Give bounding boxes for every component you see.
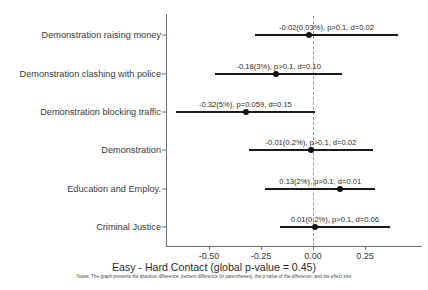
x-axis-tick-label: -0.25 — [251, 251, 272, 261]
confidence-interval-line — [265, 188, 375, 190]
x-axis-title: Easy - Hard Contact (global p-value = 0.… — [0, 261, 428, 273]
category-label: Demonstration clashing with police — [0, 69, 161, 79]
estimate-point — [306, 32, 312, 38]
estimate-point — [312, 224, 318, 230]
confidence-interval-line — [215, 73, 342, 75]
category-label: Education and Employ. — [0, 184, 161, 194]
point-annotation: 0.01(0.2%), p>0.1, d=0.06 — [291, 215, 379, 224]
y-axis-tick — [162, 226, 166, 227]
category-label: Criminal Justice — [0, 222, 161, 232]
x-axis-tick — [313, 246, 314, 250]
point-annotation: -0.32(5%), p=0.059, d=0.15 — [199, 100, 292, 109]
chart-notes: Notes: The graph presents the absolute d… — [0, 274, 428, 279]
confidence-interval-line — [280, 226, 390, 228]
y-axis-tick — [162, 150, 166, 151]
zero-reference-line — [313, 16, 314, 246]
y-axis-tick — [162, 35, 166, 36]
estimate-point — [273, 71, 279, 77]
x-axis-tick-label: 0.00 — [304, 251, 322, 261]
forest-plot-figure: Demonstration raising money-0.02(0.03%),… — [0, 0, 428, 290]
y-axis-tick — [162, 111, 166, 112]
y-axis-tick — [162, 188, 166, 189]
x-axis-spine — [166, 246, 422, 247]
x-axis-tick — [209, 246, 210, 250]
confidence-interval-line — [255, 34, 399, 36]
x-axis-tick-label: 0.25 — [356, 251, 374, 261]
y-axis-spine — [166, 14, 167, 247]
estimate-point — [243, 109, 249, 115]
point-annotation: -0.01(0.2%), p>0.1, d=0.02 — [266, 138, 357, 147]
x-axis-tick-label: -0.50 — [199, 251, 220, 261]
x-axis-tick — [261, 246, 262, 250]
point-annotation: -0.02(0.03%), p>0.1, d=0.02 — [279, 23, 374, 32]
category-label: Demonstration raising money — [0, 30, 161, 40]
point-annotation: -0.18(3%), p>0.1, d=0.10 — [236, 62, 320, 71]
category-label: Demonstration — [0, 145, 161, 155]
category-label: Demonstration blocking traffic — [0, 107, 161, 117]
point-annotation: 0.13(2%), p>0.1, d=0.01 — [279, 177, 361, 186]
y-axis-tick — [162, 73, 166, 74]
estimate-point — [308, 147, 314, 153]
estimate-point — [337, 186, 343, 192]
x-axis-tick — [365, 246, 366, 250]
